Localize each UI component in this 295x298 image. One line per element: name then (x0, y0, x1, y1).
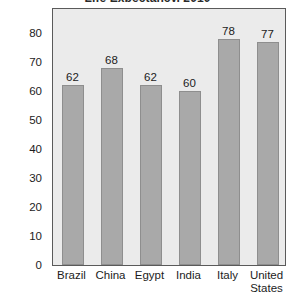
bar (140, 85, 162, 265)
x-axis: BrazilChinaEgyptIndiaItalyUnited States (52, 269, 286, 298)
y-axis-tick-label: 40 (0, 144, 42, 156)
y-axis-tick-label: 0 (0, 260, 42, 272)
y-axis: 01020304050607080 (0, 8, 48, 266)
bar-value-label: 77 (248, 29, 288, 41)
bar (218, 39, 240, 265)
bar (179, 91, 201, 265)
bar-value-label: 68 (92, 55, 132, 67)
chart-title: Life Expectancy, 2010 (0, 0, 295, 2)
plot-area: 626862607877 (52, 8, 286, 266)
y-axis-tick-label: 50 (0, 115, 42, 127)
bar-value-label: 62 (53, 72, 93, 84)
y-axis-tick-label: 70 (0, 57, 42, 69)
y-axis-tick-label: 80 (0, 28, 42, 40)
bar-value-label: 78 (209, 26, 249, 38)
y-axis-tick-label: 60 (0, 86, 42, 98)
x-axis-category-label: United States (241, 269, 293, 295)
y-axis-tick-label: 30 (0, 173, 42, 185)
bar (257, 42, 279, 265)
chart-figure: Life Expectancy, 2010 01020304050607080 … (0, 0, 295, 298)
plot-inner: 626862607877 (53, 9, 285, 265)
bar-value-label: 60 (170, 78, 210, 90)
bar (101, 68, 123, 265)
y-axis-tick-label: 10 (0, 231, 42, 243)
bar-value-label: 62 (131, 72, 171, 84)
y-axis-tick-label: 20 (0, 202, 42, 214)
bar (62, 85, 84, 265)
